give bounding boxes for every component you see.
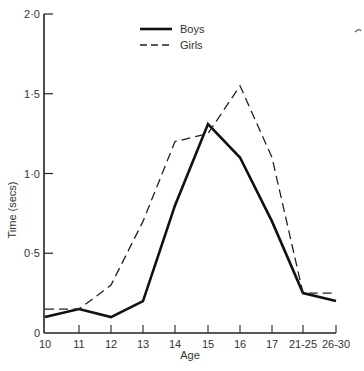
x-tick-label: 21-25 [289,338,317,350]
y-axis-label: Time (secs) [6,181,18,238]
x-tick-label: 11 [73,338,84,350]
x-tick-label: 10 [39,338,51,350]
y-tick-label: 2·0 [24,8,40,20]
x-tick-label: 16 [234,338,246,350]
y-tick-label: 1·0 [24,168,40,180]
page-mark-icon [355,30,361,32]
legend: BoysGirls [140,23,205,51]
x-axis-label: Age [180,349,200,361]
x-tick-label: 26-30 [322,338,350,350]
x-tick-label: 13 [137,338,149,350]
x-axis: 101112131415161721-2526-30 [39,325,350,350]
y-tick-label: 1·5 [24,88,40,100]
series-lines [45,86,336,317]
x-tick-label: 12 [105,338,117,350]
legend-label-boys: Boys [180,23,205,35]
y-tick-label: 0·5 [24,247,40,259]
x-tick-label: 17 [266,338,278,350]
series-line-girls [45,86,336,309]
x-tick-label: 15 [202,338,214,350]
series-line-boys [45,124,336,317]
legend-label-girls: Girls [180,39,203,51]
y-axis: 00·51·01·52·0 [24,8,53,339]
line-chart: 00·51·01·52·0 101112131415161721-2526-30… [0,0,364,371]
